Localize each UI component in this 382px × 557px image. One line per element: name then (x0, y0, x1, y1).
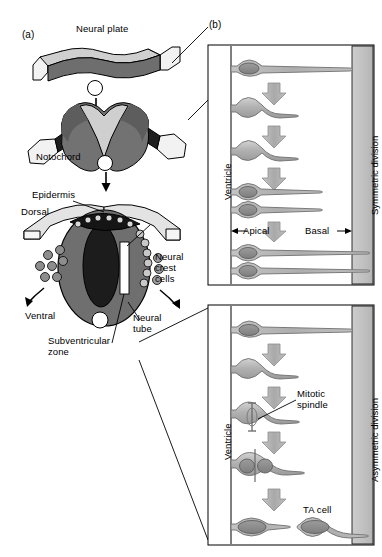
label-symmetric-division: Symmetric division (369, 136, 380, 215)
label-mitotic-spindle-line1: Mitotic (297, 389, 325, 400)
nucleus (239, 266, 257, 277)
label-neural-crest-cells-line2: crest (155, 263, 176, 274)
nucleus (239, 187, 257, 198)
nucleus (239, 325, 259, 336)
label-ventral: Ventral (25, 311, 55, 322)
label-mitotic-spindle-line2: spindle (297, 400, 328, 411)
epidermis-left-endcap (24, 231, 40, 239)
neural-tube-lumen (83, 225, 119, 307)
epidermis-right-endcap (166, 229, 180, 240)
label-apical: Apical (243, 226, 269, 237)
label-subventricular-zone-line1: Subventricular (48, 336, 110, 347)
connector-top (172, 27, 208, 63)
notochord-circle-mid (98, 156, 113, 171)
label-dorsal: Dorsal (21, 207, 49, 218)
subventricular-zone-bar (120, 242, 129, 294)
label-neural-tube-line2: tube (133, 324, 152, 335)
label-neural-crest-cells-line3: cells (155, 274, 175, 285)
panel-a-letter: (a) (22, 29, 34, 40)
nucleus (301, 521, 329, 534)
migration-arrowhead-right (172, 299, 180, 309)
nucleus (239, 248, 257, 259)
fold-right-flange (157, 134, 186, 159)
nucleus (258, 459, 273, 473)
notochord-circle-bottom (92, 312, 108, 328)
label-basal: Basal (305, 226, 329, 237)
connector-bottom (139, 360, 208, 540)
label-neural-plate: Neural plate (76, 24, 128, 35)
label-epidermis: Epidermis (32, 190, 75, 201)
label-ventricle-top: Ventricle (222, 164, 233, 200)
nucleus (238, 521, 266, 534)
label-notochord: Notochord (36, 152, 81, 163)
nucleus (240, 459, 255, 473)
neural-fold-diagram (28, 103, 186, 192)
label-neural-crest-cells-line1: Neural (155, 252, 184, 263)
panel-b-letter: (b) (209, 19, 221, 30)
notochord-circle-top (88, 81, 103, 96)
label-subventricular-zone-line2: zone (48, 347, 69, 358)
connector-upper (188, 100, 208, 120)
nucleus (239, 205, 257, 216)
nucleus (239, 63, 259, 74)
label-ventricle-bottom: Ventricle (222, 424, 233, 460)
label-neural-tube-line1: Neural (133, 313, 162, 324)
figure-canvas (0, 0, 382, 557)
label-asymmetric-division: Asymmetric division (369, 398, 380, 482)
arrow-head-2 (102, 183, 111, 192)
label-ta-cell: TA cell (303, 505, 332, 516)
